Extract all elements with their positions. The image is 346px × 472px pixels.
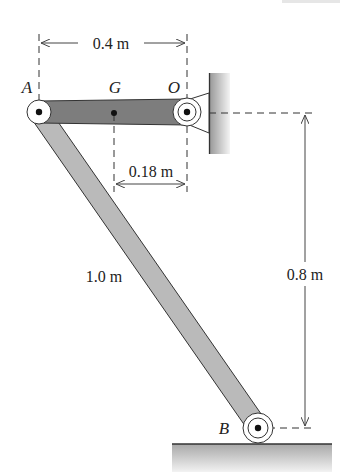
label-A: A	[21, 78, 33, 97]
dimension-GO: 0.18 m	[116, 163, 185, 184]
dimension-AB-label: 1.0 m	[86, 268, 123, 285]
ground-surface	[172, 444, 332, 472]
dimension-GO-label: 0.18 m	[129, 163, 174, 180]
dimension-vertical: 0.8 m	[287, 115, 324, 426]
link-AB	[31, 106, 266, 433]
label-O: O	[168, 78, 180, 97]
pin-O	[173, 98, 201, 126]
label-G: G	[109, 78, 121, 97]
label-B: B	[219, 419, 230, 438]
cropped-header-text	[282, 0, 340, 3]
pin-B	[243, 413, 273, 443]
dimension-AO: 0.4 m	[41, 35, 185, 52]
center-of-mass-G	[111, 110, 117, 116]
dimension-AO-label: 0.4 m	[93, 35, 130, 52]
dimension-vertical-label: 0.8 m	[287, 266, 324, 283]
linkage-diagram: 0.4 m 0.18 m 1.0 m 0.8 m A G O B	[0, 0, 346, 472]
pin-A	[27, 100, 51, 124]
